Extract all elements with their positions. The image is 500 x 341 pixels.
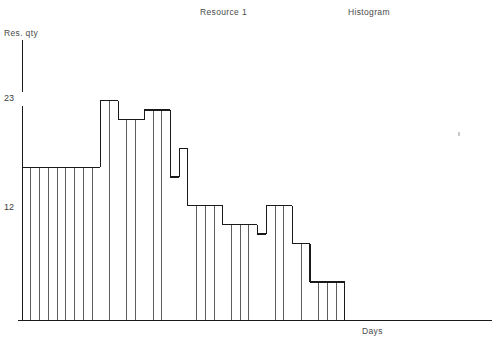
axis-lines [18,40,492,321]
histogram-bars [22,101,345,321]
stray-mark-icon [458,132,460,136]
histogram-plot-area [0,0,500,341]
histogram-page: Resource 1 Histogram Res. qty Days 23 12 [0,0,500,341]
histogram-svg [0,0,500,341]
